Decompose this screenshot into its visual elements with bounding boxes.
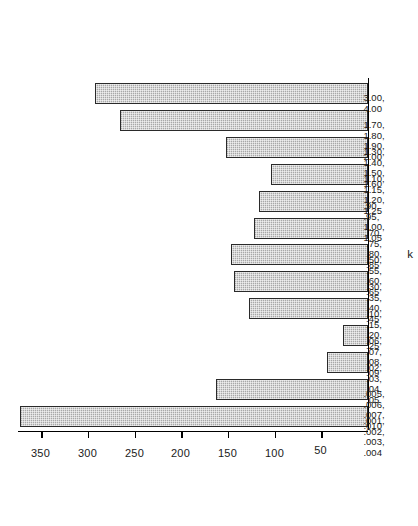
category-label-line: 1.60 [363, 179, 384, 190]
bar[interactable] [249, 298, 368, 319]
category-label-line: 2.00 [363, 152, 384, 163]
category-label-line: .004 [363, 448, 384, 459]
category-label-line: .85 [366, 260, 382, 271]
bar-slot [18, 325, 368, 346]
category-label-line: 1.25 [363, 206, 384, 217]
value-axis-tick [321, 431, 322, 438]
value-axis-tick [228, 431, 229, 438]
rotated-bar-chart-figure: 50100150200250300350 .001,.002,.003,.004… [0, 0, 418, 526]
category-label-line: .65 [366, 287, 382, 298]
bar[interactable] [254, 218, 368, 239]
category-label-line: .010 [363, 421, 384, 432]
category-label-line: .04, [366, 384, 382, 395]
bar-slot [18, 379, 368, 400]
category-label-line: .08, [366, 357, 382, 368]
category-label-line: 1.50, [363, 168, 384, 179]
bar[interactable] [327, 352, 368, 373]
bar-slot [18, 406, 368, 427]
value-axis-tick [88, 431, 89, 438]
category-label-line: 1.05 [363, 233, 384, 244]
value-axis-tick-label: 200 [175, 444, 186, 490]
bar-slot [18, 83, 368, 104]
category-label-line: .25 [366, 340, 382, 351]
value-axis-tick [41, 431, 42, 438]
value-axis-tick-label: 250 [129, 444, 140, 490]
value-axis-tick-label: 300 [82, 444, 93, 490]
bar-slot [18, 164, 368, 185]
bar[interactable] [259, 191, 368, 212]
bar[interactable] [20, 406, 368, 427]
category-label-line: .20, [366, 330, 382, 341]
bar-slot [18, 218, 368, 239]
value-axis-tick [181, 431, 182, 438]
bars-container [18, 80, 368, 430]
category-label-line: .05 [366, 394, 382, 405]
bar-series [18, 80, 368, 430]
value-axis-tick-label: 50 [315, 444, 326, 490]
bar-slot [18, 137, 368, 158]
bar-slot [18, 271, 368, 292]
category-label-line: 1.70, [363, 120, 384, 131]
category-axis-title: k [404, 78, 416, 430]
bar[interactable] [95, 83, 368, 104]
bar-slot [18, 110, 368, 131]
category-label-line: 1.20, [363, 195, 384, 206]
bar[interactable] [226, 137, 368, 158]
bar-slot [18, 245, 368, 266]
category-axis-title-text: k [407, 248, 413, 260]
bar[interactable] [271, 164, 368, 185]
bar-slot [18, 191, 368, 212]
value-axis-line [18, 431, 368, 432]
bar[interactable] [216, 379, 368, 400]
bar[interactable] [343, 325, 368, 346]
category-label-line: .40, [366, 303, 382, 314]
category-label-line: .60, [366, 276, 382, 287]
value-axis-tick-label: 150 [222, 444, 233, 490]
bar[interactable] [234, 271, 368, 292]
value-axis-title-wrapper: Number of Students [0, 494, 18, 508]
bar[interactable] [120, 110, 368, 131]
category-label-line: .80, [366, 249, 382, 260]
category-label-line: 4.00 [363, 104, 384, 115]
chart-plot-area: 50100150200250300350 .001,.002,.003,.004… [0, 0, 418, 526]
bar-slot [18, 352, 368, 373]
value-axis-tick-label: 100 [269, 444, 280, 490]
value-axis-tick-label: 350 [35, 444, 46, 490]
category-label-line: 1.90, [363, 141, 384, 152]
value-axis-tick [135, 431, 136, 438]
value-axis-title: Number of Students [0, 496, 18, 508]
category-label-line: 1.00, [363, 222, 384, 233]
value-axis-tick [275, 431, 276, 438]
category-label-line: 3.00, [363, 93, 384, 104]
category-label-line: .09 [366, 367, 382, 378]
bar[interactable] [231, 245, 368, 266]
category-label: 3.00,4.00 [374, 80, 395, 107]
bar-slot [18, 298, 368, 319]
category-label-line: .45 [366, 313, 382, 324]
